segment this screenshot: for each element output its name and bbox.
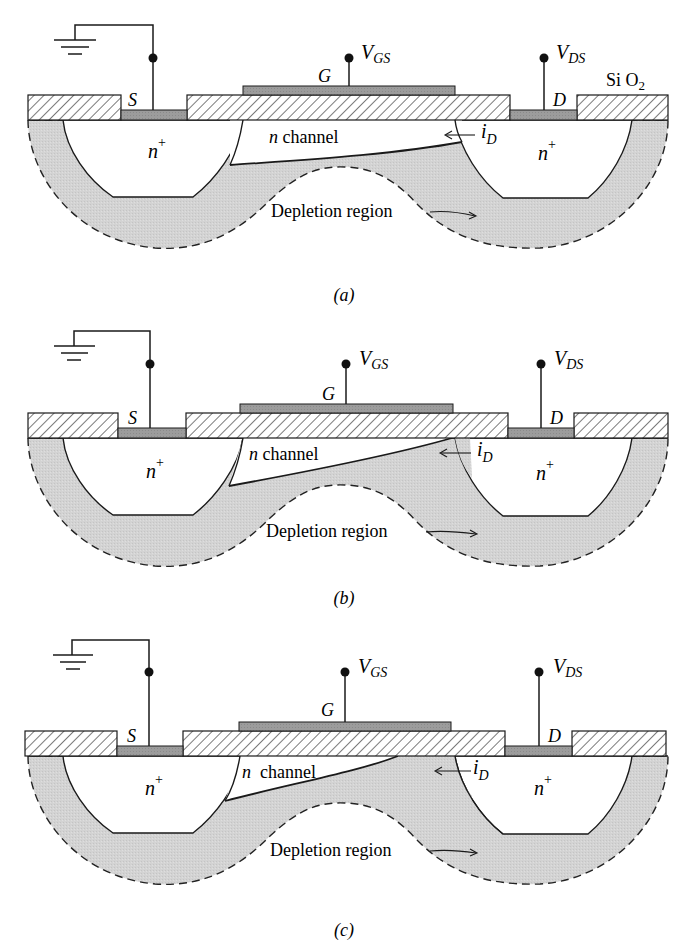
drain-terminal-icon [537, 360, 546, 369]
caption-a: (a) [334, 285, 355, 306]
gate-terminal-icon [341, 668, 350, 677]
vds-label: VDS [553, 655, 582, 680]
oxide-layer-left [28, 95, 121, 120]
drain-label: D [552, 90, 566, 110]
gate-terminal-icon [345, 54, 354, 63]
n-channel-label: n channel [269, 127, 338, 147]
drain-terminal-icon [540, 54, 549, 63]
panel-b: S G D VGS VDS n+ n+ n channel iD Depleti… [28, 331, 668, 609]
sio2-label: Si O2 [606, 70, 645, 93]
oxide-layer-middle [183, 731, 505, 756]
panel-c: S G D VGS VDS n+ n+ n channel iD Depleti… [25, 640, 668, 941]
vds-label: VDS [556, 41, 585, 66]
source-contact [118, 428, 186, 438]
n-channel-label: n channel [249, 444, 318, 464]
source-terminal-icon [146, 360, 155, 369]
drain-contact [510, 110, 577, 120]
vds-label: VDS [554, 347, 583, 372]
oxide-layer-middle [186, 413, 508, 438]
mosfet-figure: S G D VGS VDS Si O2 n+ n+ n channel iD D… [0, 0, 688, 946]
gate-label: G [321, 700, 334, 720]
panel-a: S G D VGS VDS Si O2 n+ n+ n channel iD D… [28, 25, 668, 306]
vgs-label: VGS [358, 655, 387, 680]
drain-terminal-icon [535, 668, 544, 677]
gate-electrode [239, 722, 451, 731]
n-channel-label: n channel [242, 762, 316, 782]
gate-label: G [318, 66, 331, 86]
oxide-layer-right [577, 95, 668, 120]
vgs-label: VGS [361, 41, 390, 66]
oxide-layer-left [25, 731, 117, 756]
drain-label: D [547, 726, 561, 746]
source-terminal-icon [145, 668, 154, 677]
drain-label: D [549, 408, 563, 428]
source-contact [117, 746, 183, 756]
depletion-region-label: Depletion region [271, 201, 392, 221]
drain-contact [505, 746, 572, 756]
oxide-layer-middle [187, 95, 510, 120]
vgs-label: VGS [359, 347, 388, 372]
depletion-region-label: Depletion region [266, 521, 387, 541]
source-label: S [128, 408, 137, 428]
source-terminal-icon [149, 54, 158, 63]
caption-b: (b) [334, 588, 355, 609]
drain-contact [508, 428, 574, 438]
source-label: S [127, 726, 136, 746]
oxide-layer-right [574, 413, 668, 438]
gate-electrode [240, 404, 453, 413]
gate-label: G [322, 384, 335, 404]
gate-terminal-icon [342, 360, 351, 369]
depletion-region-label: Depletion region [270, 840, 391, 860]
gate-electrode [243, 86, 455, 95]
oxide-layer-right [572, 731, 666, 756]
source-label: S [128, 90, 137, 110]
caption-c: (c) [334, 920, 354, 941]
source-contact [121, 110, 187, 120]
oxide-layer-left [28, 413, 118, 438]
